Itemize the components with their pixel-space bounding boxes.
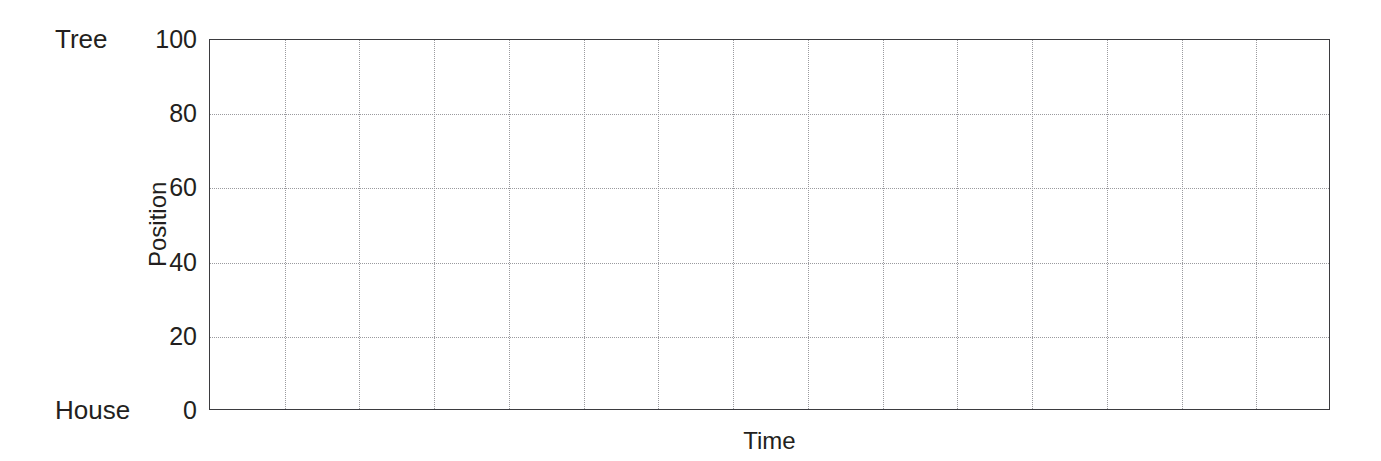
gridline-horizontal [210,114,1329,115]
y-axis-tick-label: 40 [0,250,197,275]
gridline-vertical [1256,40,1257,409]
gridline-vertical [808,40,809,409]
x-axis-title: Time [209,429,1330,453]
gridline-vertical [584,40,585,409]
gridline-vertical [658,40,659,409]
gridline-vertical [957,40,958,409]
y-axis-tick-label: 20 [0,324,197,349]
plot-area [209,39,1330,410]
y-axis-tick-label: 100 [0,27,197,52]
gridline-horizontal [210,337,1329,338]
gridline-vertical [1107,40,1108,409]
y-axis-tick-label: 0 [0,398,197,423]
gridline-vertical [733,40,734,409]
gridline-vertical [1032,40,1033,409]
y-axis-tick-label: 80 [0,101,197,126]
gridline-vertical [359,40,360,409]
y-axis-tick-label: 60 [0,175,197,200]
gridline-horizontal [210,263,1329,264]
gridline-vertical [883,40,884,409]
gridline-vertical [285,40,286,409]
chart-figure: Position Tree House 100806040200 Time [0,0,1381,461]
gridline-vertical [434,40,435,409]
gridline-vertical [509,40,510,409]
gridline-horizontal [210,188,1329,189]
gridline-vertical [1182,40,1183,409]
